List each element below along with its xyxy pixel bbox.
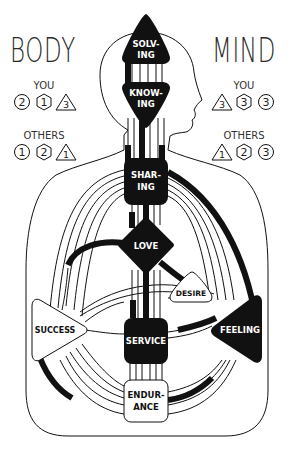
human-design-chart: SOLV- ING KNOW- ING SHAR- ING LOVE DESIR… bbox=[0, 0, 293, 454]
mind-you-icon-hexagon: 3 bbox=[237, 94, 251, 110]
center-knowing-label-1: KNOW- bbox=[129, 88, 163, 98]
svg-text:1: 1 bbox=[63, 149, 69, 160]
svg-text:1: 1 bbox=[41, 96, 48, 109]
center-sharing-label-1: SHAR- bbox=[131, 170, 161, 180]
body-others-icon-hexagon: 2 bbox=[37, 144, 51, 160]
mind-you-icon-triangle: 3 bbox=[212, 94, 232, 110]
svg-text:3: 3 bbox=[219, 99, 225, 110]
svg-text:2: 2 bbox=[41, 146, 48, 159]
center-solving[interactable]: SOLV- ING bbox=[122, 14, 170, 64]
svg-text:1: 1 bbox=[19, 146, 26, 159]
mind-you-label: YOU bbox=[233, 80, 255, 91]
body-you-icon-circle: 2 bbox=[15, 95, 30, 110]
svg-text:2: 2 bbox=[241, 146, 248, 159]
svg-text:3: 3 bbox=[263, 96, 270, 109]
svg-text:3: 3 bbox=[63, 99, 69, 110]
body-panel: BODY YOU 2 1 3 OTHERS 1 2 1 bbox=[10, 31, 76, 160]
center-solving-label-1: SOLV- bbox=[132, 39, 160, 49]
body-you-icon-hexagon: 1 bbox=[37, 94, 51, 110]
center-love-label: LOVE bbox=[134, 241, 159, 251]
svg-text:2: 2 bbox=[19, 96, 26, 109]
mind-others-icon-triangle: 1 bbox=[212, 144, 232, 160]
body-title: BODY bbox=[10, 31, 76, 70]
center-desire-label: DESIRE bbox=[176, 289, 206, 298]
center-success-label: SUCCESS bbox=[35, 326, 76, 335]
mind-others-icon-circle: 3 bbox=[259, 145, 274, 160]
mind-title: MIND bbox=[212, 31, 276, 70]
body-you-label: YOU bbox=[33, 80, 55, 91]
center-service-label: SERVICE bbox=[126, 336, 166, 346]
center-endurance[interactable]: ENDUR- ANCE bbox=[124, 380, 168, 422]
mind-others-icon-hexagon: 2 bbox=[237, 144, 251, 160]
body-others-label: OTHERS bbox=[23, 130, 64, 141]
center-sharing-label-2: ING bbox=[137, 182, 154, 192]
center-endurance-label-2: ANCE bbox=[133, 402, 159, 412]
center-service[interactable]: SERVICE bbox=[124, 318, 168, 364]
body-you-icon-triangle: 3 bbox=[56, 94, 76, 110]
svg-text:1: 1 bbox=[219, 149, 225, 160]
center-feeling-label: FEELING bbox=[220, 325, 260, 335]
body-others-icon-circle: 1 bbox=[15, 145, 30, 160]
mind-you-icon-circle: 3 bbox=[259, 95, 274, 110]
svg-text:3: 3 bbox=[241, 96, 248, 109]
center-knowing-label-2: ING bbox=[137, 99, 154, 109]
center-sharing[interactable]: SHAR- ING bbox=[124, 158, 168, 205]
center-feeling[interactable]: FEELING bbox=[211, 295, 262, 363]
mind-panel: MIND YOU 3 3 3 OTHERS 1 2 3 bbox=[212, 31, 276, 160]
center-solving-label-2: ING bbox=[137, 50, 154, 60]
mind-others-label: OTHERS bbox=[223, 130, 264, 141]
svg-text:3: 3 bbox=[263, 146, 270, 159]
body-others-icon-triangle: 1 bbox=[56, 144, 76, 160]
center-endurance-label-1: ENDUR- bbox=[128, 390, 165, 400]
center-knowing[interactable]: KNOW- ING bbox=[122, 82, 170, 128]
